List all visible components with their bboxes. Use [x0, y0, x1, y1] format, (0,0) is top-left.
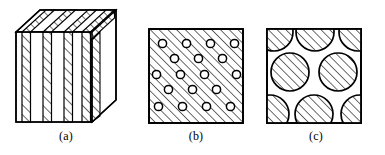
particle: [170, 54, 178, 62]
particle: [164, 85, 172, 93]
figure-c-large-particle-square: [266, 28, 366, 124]
particle: [188, 85, 196, 93]
large-particle: [339, 13, 377, 51]
particle: [202, 102, 210, 110]
figure-a-laminated-block: [14, 8, 118, 126]
particle: [154, 102, 162, 110]
figure-b-small-particle-square: [148, 28, 244, 124]
particle: [230, 39, 238, 47]
large-particle: [251, 95, 289, 133]
particle: [206, 39, 214, 47]
particle: [232, 70, 240, 78]
large-particle: [271, 53, 309, 91]
particle: [212, 85, 220, 93]
composite-microstructure-figure: (a): [0, 0, 385, 155]
particle: [176, 70, 184, 78]
large-particle: [295, 95, 333, 133]
large-particle: [341, 95, 379, 133]
particle: [226, 102, 234, 110]
particle: [218, 54, 226, 62]
particle: [200, 70, 208, 78]
particle: [194, 54, 202, 62]
figure-b-caption: (b): [148, 129, 244, 144]
right-face-edge-slab: [92, 32, 100, 122]
particle: [158, 39, 166, 47]
large-particle: [319, 53, 357, 91]
particle: [182, 39, 190, 47]
particle: [152, 70, 160, 78]
particle: [178, 102, 186, 110]
large-particle: [296, 13, 334, 51]
figure-a-caption: (a): [14, 129, 118, 144]
large-particle: [255, 13, 293, 51]
figure-c-caption: (c): [266, 129, 366, 144]
